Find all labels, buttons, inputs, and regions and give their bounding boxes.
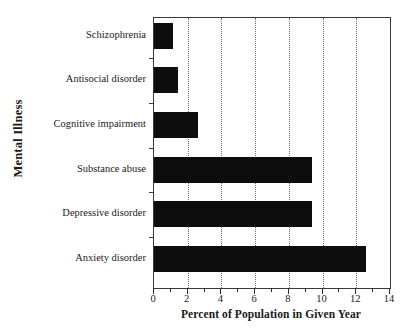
x-tick-label-2: 2 bbox=[184, 293, 189, 304]
x-tick-label-0: 0 bbox=[150, 293, 155, 304]
x-tick-11 bbox=[338, 288, 339, 292]
x-axis-title: Percent of Population in Given Year bbox=[153, 308, 389, 320]
y-axis-tick-2 bbox=[149, 103, 154, 104]
bar-antisocial-disorder bbox=[154, 67, 178, 93]
plot-area bbox=[153, 17, 391, 289]
x-tick-5 bbox=[237, 288, 238, 292]
x-tick-label-12: 12 bbox=[350, 293, 361, 304]
x-tick-label-8: 8 bbox=[285, 293, 290, 304]
y-axis-tick-3 bbox=[149, 148, 154, 149]
x-tick-label-10: 10 bbox=[316, 293, 327, 304]
bar-cognitive-impairment bbox=[154, 112, 198, 138]
x-tick-3 bbox=[204, 288, 205, 292]
y-axis-tick-4 bbox=[149, 192, 154, 193]
y-axis-tick-labels: Schizophrenia Antisocial disorder Cognit… bbox=[0, 0, 153, 334]
bar-chart: Mental Illness Schizophrenia Antisocial … bbox=[0, 0, 411, 334]
x-axis-tick-labels: 0 2 4 6 8 10 12 14 bbox=[153, 293, 390, 309]
bars-group bbox=[154, 18, 390, 288]
bar-anxiety-disorder bbox=[154, 246, 366, 272]
bar-schizophrenia bbox=[154, 23, 173, 49]
bar-depressive-disorder bbox=[154, 201, 312, 227]
x-tick-1 bbox=[170, 288, 171, 292]
x-tick-9 bbox=[305, 288, 306, 292]
y-tick-label-anxiety-disorder: Anxiety disorder bbox=[7, 252, 153, 264]
y-axis-tick-1 bbox=[149, 58, 154, 59]
x-tick-label-6: 6 bbox=[251, 293, 256, 304]
x-tick-label-4: 4 bbox=[218, 293, 223, 304]
y-axis-tick-5 bbox=[149, 237, 154, 238]
x-tick-7 bbox=[271, 288, 272, 292]
y-tick-label-substance-abuse: Substance abuse bbox=[7, 163, 153, 175]
y-tick-label-depressive-disorder: Depressive disorder bbox=[7, 207, 153, 219]
y-tick-label-schizophrenia: Schizophrenia bbox=[7, 29, 153, 41]
y-tick-label-cognitive-impairment: Cognitive impairment bbox=[7, 118, 153, 130]
y-tick-label-antisocial-disorder: Antisocial disorder bbox=[7, 73, 153, 85]
x-tick-label-14: 14 bbox=[384, 293, 395, 304]
x-tick-13 bbox=[372, 288, 373, 292]
bar-substance-abuse bbox=[154, 157, 312, 183]
